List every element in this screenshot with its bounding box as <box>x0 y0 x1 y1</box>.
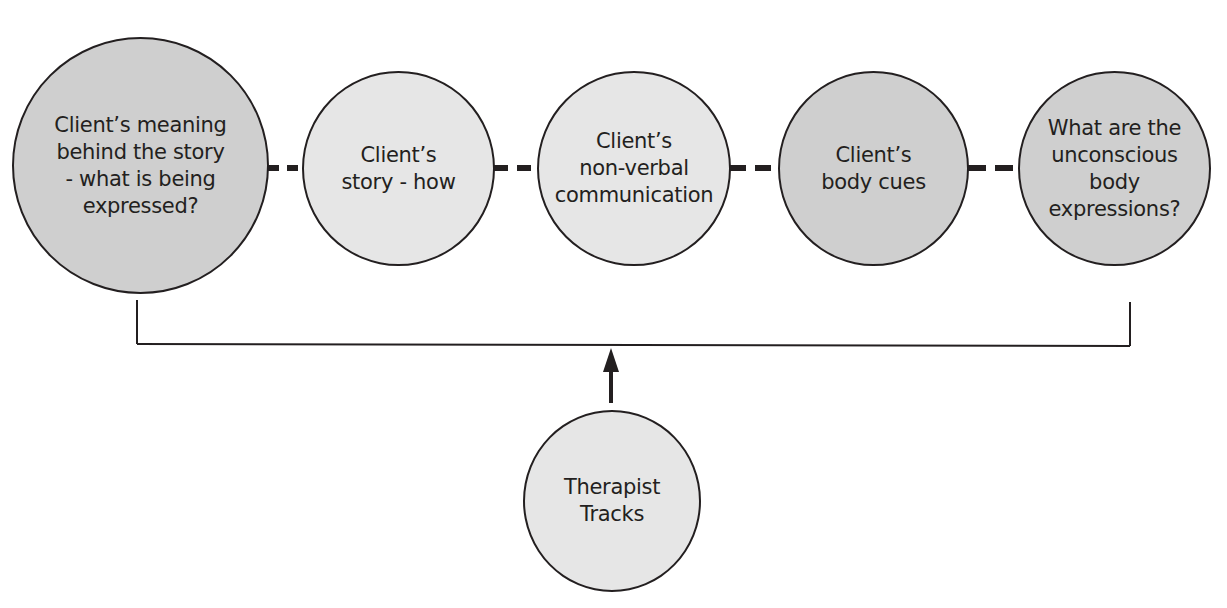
node-label: Client’s non-verbal communication <box>555 128 714 209</box>
node-label: Client’s body cues <box>821 142 926 196</box>
node-therapist-tracks: Therapist Tracks <box>523 410 701 592</box>
arrow-up-icon <box>603 348 619 403</box>
node-clients-story: Client’s story - how <box>302 71 495 266</box>
node-label: What are the unconscious body expression… <box>1048 115 1181 223</box>
node-unconscious-expressions: What are the unconscious body expression… <box>1018 71 1211 266</box>
node-label: Client’s meaning behind the story - what… <box>54 112 226 220</box>
node-label: Therapist Tracks <box>564 474 660 528</box>
grouping-bracket <box>137 300 1130 346</box>
node-clients-meaning: Client’s meaning behind the story - what… <box>12 37 269 294</box>
node-clients-body-cues: Client’s body cues <box>778 71 969 266</box>
node-clients-nonverbal: Client’s non-verbal communication <box>537 71 731 266</box>
node-label: Client’s story - how <box>341 142 455 196</box>
